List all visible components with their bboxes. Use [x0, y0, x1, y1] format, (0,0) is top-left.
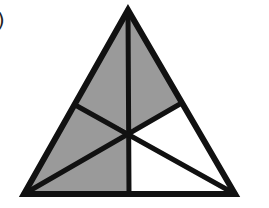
median-apex	[128, 10, 129, 194]
triangle-figure	[0, 0, 269, 208]
